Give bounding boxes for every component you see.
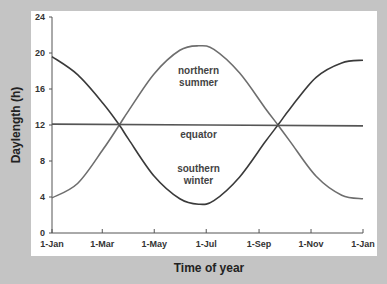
y-tick-label: 12 bbox=[35, 120, 45, 130]
annotation-northern-summer: northernsummer bbox=[178, 65, 219, 88]
y-tick-label: 0 bbox=[40, 228, 45, 238]
x-tick-label: 1-Jul bbox=[196, 239, 217, 249]
annotation-equator: equator bbox=[180, 129, 217, 140]
x-tick-label: 1-Nov bbox=[299, 239, 324, 249]
x-tick-label: 1-Jan bbox=[351, 239, 375, 249]
y-tick-label: 8 bbox=[40, 156, 45, 166]
y-tick-label: 24 bbox=[35, 12, 45, 22]
x-tick-label: 1-Jan bbox=[40, 239, 64, 249]
x-tick-label: 1-May bbox=[141, 239, 167, 249]
x-tick-label: 1-Sep bbox=[247, 239, 272, 249]
daylength-chart: 048121620241-Jan1-Mar1-May1-Jul1-Sep1-No… bbox=[0, 0, 387, 284]
y-axis-title: Daylength (h) bbox=[9, 87, 23, 164]
x-axis-title: Time of year bbox=[174, 261, 245, 275]
x-tick-label: 1-Mar bbox=[90, 239, 115, 249]
y-tick-label: 4 bbox=[40, 192, 45, 202]
y-tick-label: 16 bbox=[35, 84, 45, 94]
y-tick-label: 20 bbox=[35, 48, 45, 58]
